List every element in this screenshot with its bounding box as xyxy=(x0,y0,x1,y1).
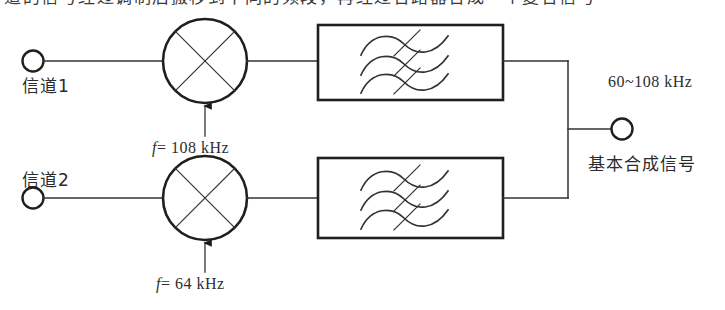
filter-bottom-box xyxy=(318,158,503,238)
terminal-channel-1 xyxy=(23,51,44,72)
filter-top-box xyxy=(318,25,503,100)
label-composite-signal: 基本合成信号 xyxy=(588,150,696,175)
terminal-composite-output xyxy=(612,119,633,140)
figure-canvas: 道的信号经过调制后搬移到不同的频段，再经过合路器合成一个复合信号 xyxy=(0,0,725,310)
carrier-top-value: = 108 kHz xyxy=(157,139,229,156)
label-output-band: 60~108 kHz xyxy=(608,73,692,91)
label-carrier-bottom: f= 64 kHz xyxy=(156,275,225,293)
label-channel-1: 信道1 xyxy=(22,72,70,97)
carrier-bottom-value: = 64 kHz xyxy=(161,275,225,292)
label-channel-2: 信道2 xyxy=(22,166,70,191)
label-carrier-top: f= 108 kHz xyxy=(152,139,229,157)
